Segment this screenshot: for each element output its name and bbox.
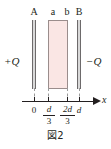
axis-tick-2d-over-3 <box>67 97 68 102</box>
axis-tick-d <box>79 97 80 102</box>
label-plate-b: B <box>72 7 86 17</box>
axis-ticklabel-d-over-3: d 3 <box>42 105 56 126</box>
fraction-denominator: 3 <box>59 117 76 126</box>
conducting-plate-b <box>77 20 81 89</box>
fraction-denominator: 3 <box>42 117 56 126</box>
dielectric-slab <box>48 20 68 89</box>
label-plate-a: A <box>27 7 41 17</box>
axis-tick-d-over-3 <box>48 97 49 102</box>
x-axis-line <box>22 101 94 102</box>
axis-ticklabel-d: d <box>74 106 84 115</box>
figure-caption: 図2 <box>0 131 111 141</box>
charge-label-negative: −Q <box>86 56 101 67</box>
conducting-plate-a <box>32 20 36 89</box>
fraction-numerator: d <box>42 105 56 115</box>
charge-label-positive: +Q <box>4 56 19 67</box>
x-axis-arrowhead-icon <box>93 97 101 105</box>
capacitor-dielectric-figure: A a b B +Q −Q x 0 d 3 2d 3 d 図2 <box>0 0 111 149</box>
label-slab-left-face: a <box>46 7 60 17</box>
axis-tick-origin <box>34 97 35 102</box>
axis-ticklabel-origin: 0 <box>29 106 39 115</box>
x-axis-label: x <box>102 94 106 105</box>
